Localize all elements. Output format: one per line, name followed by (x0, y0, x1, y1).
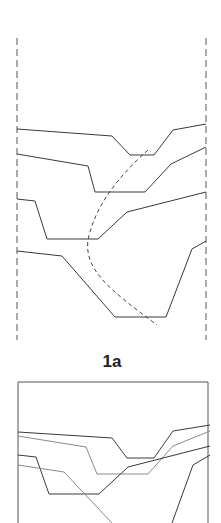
profile-4b (172, 455, 210, 523)
bottom-panel-profiles (18, 425, 210, 523)
profile-3 (17, 192, 206, 239)
profile-2 (18, 431, 210, 474)
profile-2 (17, 147, 206, 192)
profile-1 (17, 124, 206, 155)
figure-drawing (0, 0, 221, 523)
top-panel-profiles (17, 124, 206, 317)
figure-label: 1a (97, 352, 127, 372)
dashed-axis-curve (88, 150, 157, 325)
profile-3 (18, 446, 210, 494)
profile-4 (17, 241, 206, 317)
top-panel-boundaries (17, 38, 206, 340)
